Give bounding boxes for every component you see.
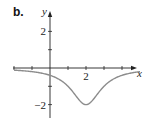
y-tick-label: −2 [34, 99, 46, 111]
panel-label: b. [13, 5, 24, 19]
data-curve [14, 70, 140, 104]
y-axis-label: y [41, 5, 47, 17]
figure: b. 22−2xy [0, 0, 148, 126]
axes [13, 11, 137, 118]
x-axis-label: x [136, 67, 142, 79]
y-tick-label: 2 [41, 25, 47, 37]
y-axis-arrow-icon [48, 11, 52, 17]
x-tick-label: 2 [83, 70, 89, 82]
